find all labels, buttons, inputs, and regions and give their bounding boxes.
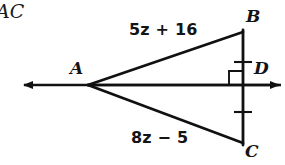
side-label-ab-expression: 5z + 16	[129, 22, 198, 38]
vertex-label-b: B	[246, 8, 260, 25]
vertex-label-d: D	[254, 60, 269, 77]
geometry-figure: AC A B C D 5z + 16 8z − 5	[0, 0, 285, 165]
vertex-label-c: C	[245, 143, 259, 160]
right-angle-marker	[229, 71, 243, 85]
segment-ab	[88, 32, 243, 85]
side-label-ac-expression: 8z − 5	[131, 130, 188, 146]
corner-text-fragment: AC	[0, 2, 24, 21]
vertex-label-a: A	[70, 60, 83, 77]
